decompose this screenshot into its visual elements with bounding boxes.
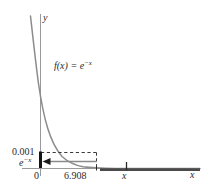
function-label-base: f(x) = e: [54, 60, 84, 71]
x-axis-label: x: [190, 170, 194, 180]
tail-arrow-head: [43, 158, 51, 165]
figure-container: y x f(x) = e−x 0.001 e−x 0 6.908 x: [0, 0, 203, 190]
crossing-value-label: 6.908: [64, 171, 87, 181]
tail-value-label: e−x: [19, 157, 31, 168]
y-axis-label: y: [43, 13, 47, 23]
x-tick-label: x: [122, 171, 126, 181]
function-label: f(x) = e−x: [54, 60, 92, 71]
exponential-curve: [31, 16, 201, 169]
function-label-exponent: −x: [84, 59, 92, 67]
origin-label: 0: [34, 171, 39, 181]
tail-value-exponent: −x: [23, 156, 31, 164]
